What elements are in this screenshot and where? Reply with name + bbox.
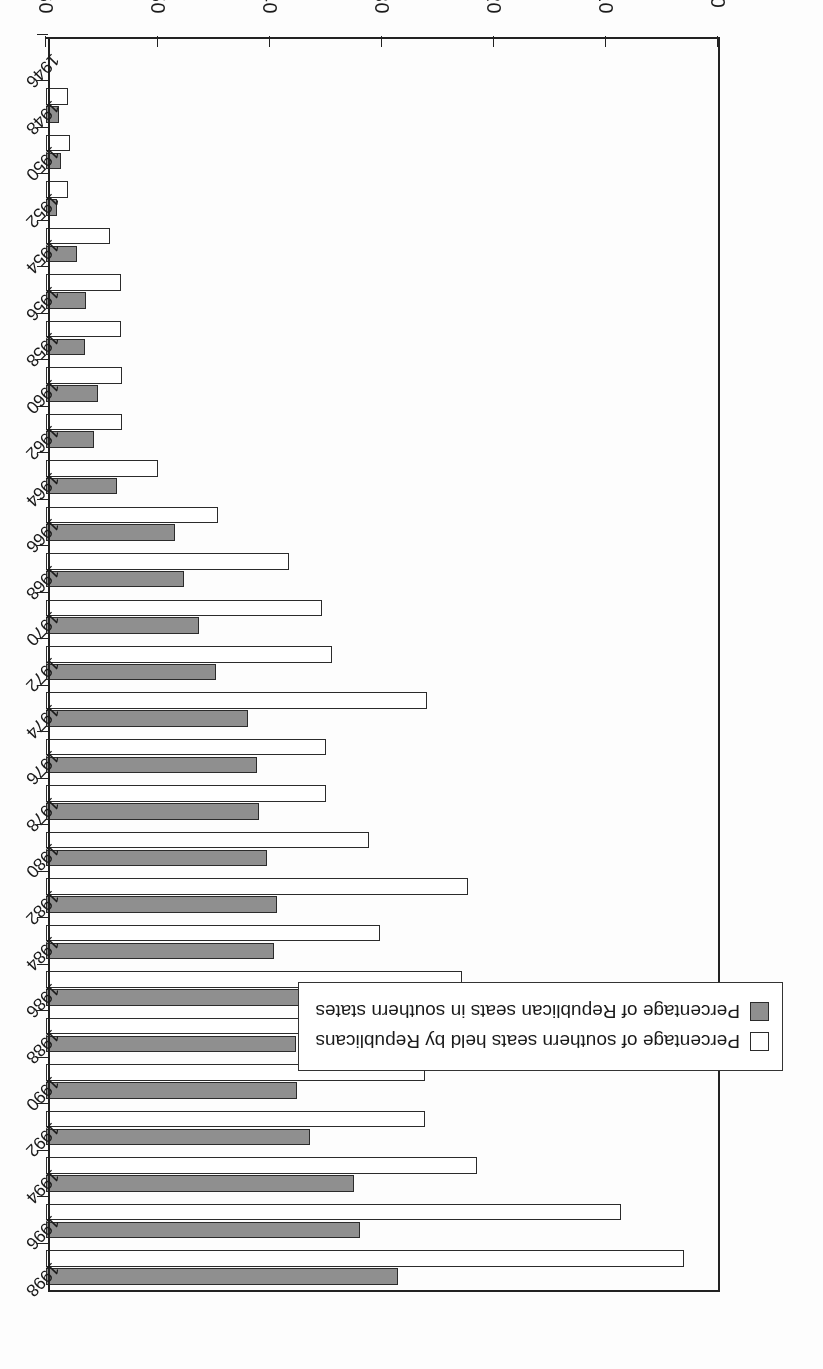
bar-group — [46, 918, 718, 964]
bar-republican-seats-in-south — [46, 664, 216, 681]
category-tick — [37, 266, 48, 267]
value-tick — [493, 36, 494, 47]
category-tick — [37, 1150, 48, 1151]
category-tick — [37, 220, 48, 221]
bar-republican-seats-in-south — [46, 1268, 398, 1285]
bar-southern-seats-held — [46, 600, 322, 617]
category-tick — [37, 1057, 48, 1058]
bar-southern-seats-held — [46, 925, 380, 942]
filled-square-icon — [750, 1003, 769, 1022]
bar-southern-seats-held — [46, 274, 121, 291]
bar-republican-seats-in-south — [46, 617, 199, 634]
legend-item-label: Percentage of Republican seats in southe… — [315, 1003, 740, 1022]
category-tick — [37, 731, 48, 732]
bar-republican-seats-in-south — [46, 757, 257, 774]
category-tick — [37, 1010, 48, 1011]
bar-group — [46, 639, 718, 685]
bar-republican-seats-in-south — [46, 1175, 354, 1192]
category-tick — [37, 406, 48, 407]
legend-item: Percentage of Republican seats in southe… — [315, 997, 769, 1027]
bar-southern-seats-held — [46, 1204, 621, 1221]
bar-republican-seats-in-south — [46, 524, 175, 541]
category-tick — [37, 824, 48, 825]
value-tick-label: 0 — [707, 0, 730, 33]
scanned-page: 0102030405060 19461948195019521954195619… — [0, 0, 823, 1369]
category-tick — [37, 871, 48, 872]
bar-southern-seats-held — [46, 507, 218, 524]
bar-republican-seats-in-south — [46, 571, 184, 588]
chart-legend: Percentage of southern seats held by Rep… — [298, 982, 783, 1071]
bar-southern-seats-held — [46, 832, 369, 849]
legend-item-label: Percentage of southern seats held by Rep… — [315, 1033, 740, 1052]
bar-group — [46, 453, 718, 499]
bar-group — [46, 82, 718, 128]
bar-southern-seats-held — [46, 460, 158, 477]
bar-southern-seats-held — [46, 1111, 425, 1128]
bar-group — [46, 1151, 718, 1197]
bar-group — [46, 174, 718, 220]
bar-southern-seats-held — [46, 739, 326, 756]
rotated-figure-stage: 0102030405060 19461948195019521954195619… — [0, 0, 823, 1369]
bar-southern-seats-held — [46, 553, 289, 570]
bar-group — [46, 546, 718, 592]
bar-group — [46, 593, 718, 639]
bar-group — [46, 872, 718, 918]
bar-southern-seats-held — [46, 414, 122, 431]
value-tick — [717, 36, 718, 47]
bar-group — [46, 360, 718, 406]
bar-group — [46, 35, 718, 81]
category-tick — [37, 638, 48, 639]
value-tick-label: 30 — [371, 0, 394, 33]
category-tick — [37, 1243, 48, 1244]
bar-southern-seats-held — [46, 878, 468, 895]
category-tick — [37, 34, 48, 35]
value-tick — [381, 36, 382, 47]
bar-republican-seats-in-south — [46, 1129, 310, 1146]
bar-southern-seats-held — [46, 367, 122, 384]
value-tick-label: 20 — [483, 0, 506, 33]
bar-southern-seats-held — [46, 1250, 684, 1267]
value-tick — [269, 36, 270, 47]
bar-group — [46, 314, 718, 360]
category-tick — [37, 592, 48, 593]
bars-container — [46, 35, 718, 1290]
bar-republican-seats-in-south — [46, 989, 313, 1006]
category-tick — [37, 499, 48, 500]
bar-southern-seats-held — [46, 1157, 477, 1174]
bar-republican-seats-in-south — [46, 803, 259, 820]
bar-group — [46, 1197, 718, 1243]
bar-group — [46, 1244, 718, 1290]
bar-group — [46, 686, 718, 732]
open-square-icon — [750, 1033, 769, 1052]
category-tick — [37, 685, 48, 686]
bar-group — [46, 779, 718, 825]
category-tick — [37, 1196, 48, 1197]
category-tick — [37, 313, 48, 314]
value-axis — [46, 37, 718, 39]
value-tick-label: 40 — [259, 0, 282, 33]
legend-item: Percentage of southern seats held by Rep… — [315, 1027, 769, 1057]
bar-group — [46, 128, 718, 174]
plot-frame: 0102030405060 19461948195019521954195619… — [48, 37, 720, 1292]
bar-southern-seats-held — [46, 321, 121, 338]
bar-southern-seats-held — [46, 785, 326, 802]
value-tick-label: 50 — [147, 0, 170, 33]
bar-southern-seats-held — [46, 693, 427, 710]
category-tick — [37, 917, 48, 918]
bar-group — [46, 1104, 718, 1150]
value-tick — [157, 36, 158, 47]
bar-republican-seats-in-south — [46, 896, 277, 913]
category-tick — [37, 452, 48, 453]
bar-group — [46, 732, 718, 778]
bar-republican-seats-in-south — [46, 943, 274, 960]
bar-group — [46, 221, 718, 267]
category-tick — [37, 80, 48, 81]
bar-southern-seats-held — [46, 646, 332, 663]
bar-republican-seats-in-south — [46, 1082, 297, 1099]
bar-republican-seats-in-south — [46, 850, 267, 867]
category-tick — [37, 545, 48, 546]
value-tick — [45, 36, 46, 47]
category-tick — [37, 173, 48, 174]
category-tick — [37, 1103, 48, 1104]
bar-republican-seats-in-south — [46, 1036, 296, 1053]
